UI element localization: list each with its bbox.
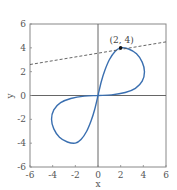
y-tick-label: -6 — [17, 162, 26, 172]
x-tick-label: -2 — [71, 170, 80, 180]
x-tick-label: 6 — [163, 170, 169, 180]
y-tick-label: 4 — [20, 43, 26, 53]
y-tick-labels: -6-4-20246 — [17, 19, 26, 172]
x-tick-label: 2 — [118, 170, 124, 180]
x-tick-label: -6 — [26, 170, 35, 180]
x-axis-label: x — [95, 179, 100, 189]
point-marker — [119, 46, 123, 50]
y-tick-label: -2 — [17, 114, 26, 124]
y-tick-label: -4 — [17, 138, 26, 148]
point-label: (2, 4) — [110, 35, 134, 45]
y-tick-label: 0 — [20, 91, 26, 101]
y-tick-label: 6 — [20, 19, 26, 29]
y-axis-label: y — [5, 93, 15, 100]
x-tick-label: 4 — [140, 170, 146, 180]
y-tick-label: 2 — [20, 67, 26, 77]
figure-eight-chart: -6-4-20246 -6-4-20246 (2, 4) x y — [0, 0, 177, 190]
x-tick-label: -4 — [48, 170, 57, 180]
